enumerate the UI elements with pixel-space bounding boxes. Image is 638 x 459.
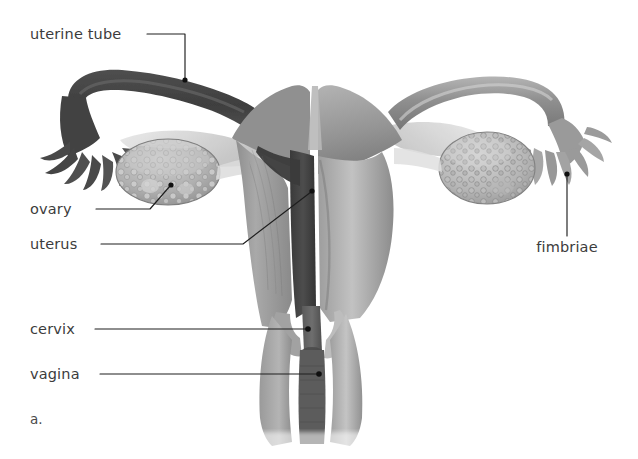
vagina-bottom-fade [250,432,376,459]
anatomy-figure: uterine tube ovary uterus cervix vag [0,0,638,459]
leader-dot-uterine-tube [182,77,187,82]
vaginal-canal [299,350,326,444]
label-uterine-tube-text: uterine tube [30,26,121,42]
vagina-wall-right [330,314,362,446]
leader-dot-fimbriae [564,171,569,176]
leader-uterine-tube [147,34,185,79]
leader-dot-ovary [168,182,173,187]
vagina-wall-left [260,316,293,446]
right-adnexa [380,77,612,204]
label-ovary-text: ovary [30,201,72,217]
label-vagina-text: vagina [30,366,80,382]
label-fimbriae-text: fimbriae [536,239,597,255]
right-uterine-tube [388,77,565,130]
figure-panel-letter: a. [30,411,43,427]
leader-dot-uterus [309,188,314,193]
label-cervix-text: cervix [30,321,75,337]
uterus-group [232,85,402,459]
leader-dot-cervix [305,326,311,332]
label-fimbriae[interactable]: fimbriae [536,171,597,255]
leader-dot-vagina [316,371,322,377]
label-uterus-text: uterus [30,236,77,252]
anatomy-illustration: uterine tube ovary uterus cervix vag [0,0,638,459]
